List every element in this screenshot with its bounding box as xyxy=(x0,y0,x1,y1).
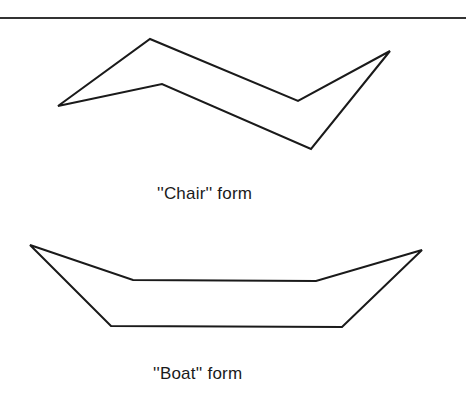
boat-form-shape xyxy=(30,245,422,327)
conformation-diagram xyxy=(0,0,466,409)
chair-form-label: ''Chair'' form xyxy=(157,184,252,204)
chair-form-shape xyxy=(58,39,390,149)
boat-form-label: ''Boat'' form xyxy=(153,364,242,384)
